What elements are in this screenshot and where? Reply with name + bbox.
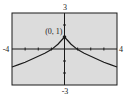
annotation-marker xyxy=(63,35,67,39)
y-min-label: -3 xyxy=(62,87,69,96)
y-max-label: 3 xyxy=(63,3,67,12)
chart: (0, 1) -4 4 3 -3 xyxy=(0,0,124,96)
x-min-label: -4 xyxy=(3,45,10,54)
x-max-label: 4 xyxy=(119,45,123,54)
annotation-label: (0, 1) xyxy=(45,27,63,36)
